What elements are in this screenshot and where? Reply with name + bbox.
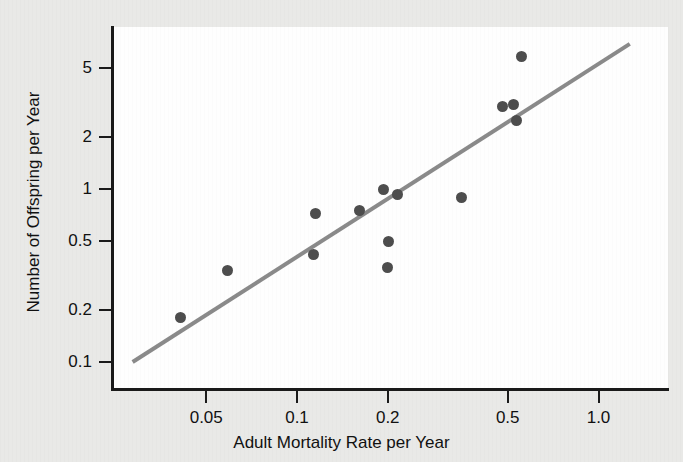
y-tick-mark [99, 67, 112, 69]
figure-panel: 0.10.20.5125 0.050.10.20.51.0 Adult Mort… [0, 0, 683, 462]
y-tick-mark [99, 240, 112, 242]
data-point [516, 51, 527, 62]
data-point [354, 205, 365, 216]
y-axis-line [111, 26, 114, 391]
data-point [392, 189, 403, 200]
y-axis-title: Number of Offspring per Year [24, 72, 44, 332]
y-tick-mark [99, 361, 112, 363]
x-axis-title: Adult Mortality Rate per Year [0, 433, 683, 453]
x-tick-mark [598, 391, 600, 403]
data-point [222, 265, 233, 276]
x-tick-mark [507, 391, 509, 403]
data-point [310, 208, 321, 219]
x-tick-label: 0.05 [166, 409, 246, 426]
x-tick-mark [387, 391, 389, 403]
y-tick-label: 0.1 [20, 353, 92, 370]
y-tick-mark [99, 136, 112, 138]
x-tick-label: 0.2 [348, 409, 428, 426]
x-tick-label: 1.0 [559, 409, 639, 426]
data-point [308, 249, 319, 260]
data-point [383, 236, 394, 247]
data-point [497, 101, 508, 112]
x-tick-label: 0.1 [257, 409, 337, 426]
x-axis-line [111, 388, 669, 391]
plot-canvas [113, 27, 668, 390]
x-tick-mark [205, 391, 207, 403]
data-point [508, 99, 519, 110]
x-tick-label: 0.5 [468, 409, 548, 426]
x-tick-mark [296, 391, 298, 403]
data-point [511, 115, 522, 126]
y-tick-mark [99, 188, 112, 190]
y-tick-mark [99, 309, 112, 311]
